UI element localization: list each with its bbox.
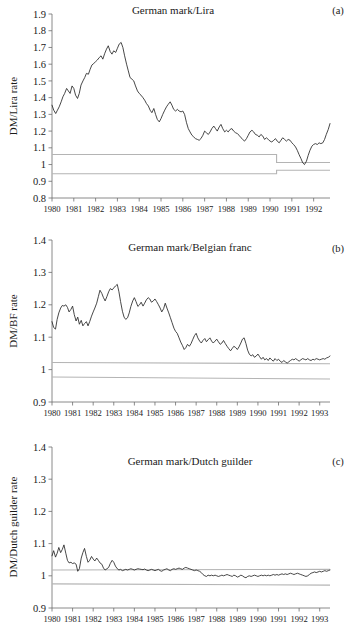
y-tick-label: 1.4 xyxy=(33,235,47,246)
x-tick-label: 1986 xyxy=(174,204,192,214)
series-line-c xyxy=(52,545,330,578)
y-tick-label: 0.9 xyxy=(33,397,46,408)
x-tick-label: 1984 xyxy=(126,408,144,418)
panel-title: German mark/Lira xyxy=(132,4,214,16)
y-tick-label: 1.7 xyxy=(33,42,46,53)
band-upper-line xyxy=(52,155,330,163)
series-line-a xyxy=(52,42,330,164)
series-line-b xyxy=(52,284,330,363)
y-tick-label: 1.2 xyxy=(33,299,46,310)
y-axis-title: DM/Lira rate xyxy=(7,77,19,135)
y-tick-label: 1.2 xyxy=(33,506,46,517)
y-tick-label: 0.9 xyxy=(33,176,46,187)
x-tick-label: 1988 xyxy=(218,204,235,214)
x-tick-label: 1992 xyxy=(291,408,308,418)
x-tick-label: 1985 xyxy=(146,408,163,418)
y-axis-title: DM/BF rate xyxy=(7,294,19,348)
y-tick-label: 1.1 xyxy=(33,538,46,549)
panel-letter: (c) xyxy=(332,456,344,468)
panel-letter: (a) xyxy=(332,5,344,17)
x-tick-label: 1993 xyxy=(311,614,328,624)
x-tick-label: 1980 xyxy=(43,408,60,418)
panel-letter: (b) xyxy=(332,243,345,255)
y-tick-label: 1.4 xyxy=(33,442,47,453)
y-tick-label: 1.3 xyxy=(33,109,46,120)
panel-title: German mark/Dutch guilder xyxy=(128,455,253,467)
x-tick-label: 1982 xyxy=(87,204,104,214)
x-tick-label: 1986 xyxy=(167,614,185,624)
x-tick-label: 1982 xyxy=(85,614,102,624)
chart-svg-a: 0.80.911.11.21.31.41.51.61.71.81.9198019… xyxy=(0,0,356,222)
x-tick-label: 1983 xyxy=(105,614,122,624)
x-tick-label: 1989 xyxy=(240,204,257,214)
band-lower-line xyxy=(52,584,330,585)
panel-b-german-mark-belgian-franc: 0.911.11.21.31.4198019811982198319841985… xyxy=(0,222,356,429)
x-tick-label: 1991 xyxy=(283,204,300,214)
x-tick-label: 1991 xyxy=(270,614,287,624)
band-lower-line xyxy=(52,377,330,379)
x-tick-label: 1989 xyxy=(229,614,246,624)
exchange-rate-figure: 0.80.911.11.21.31.41.51.61.71.81.9198019… xyxy=(0,0,356,637)
y-tick-label: 1.5 xyxy=(33,76,46,87)
x-tick-label: 1990 xyxy=(261,204,278,214)
x-tick-label: 1981 xyxy=(65,204,82,214)
y-tick-label: 1.1 xyxy=(33,332,46,343)
x-tick-label: 1981 xyxy=(64,614,81,624)
chart-svg-c: 0.911.11.21.31.4198019811982198319841985… xyxy=(0,429,356,637)
y-tick-label: 1.8 xyxy=(33,25,46,36)
y-tick-label: 0.9 xyxy=(33,603,46,614)
x-tick-label: 1984 xyxy=(131,204,149,214)
x-tick-label: 1990 xyxy=(249,614,266,624)
y-tick-label: 1.3 xyxy=(33,474,46,485)
x-tick-label: 1983 xyxy=(105,408,122,418)
x-tick-label: 1985 xyxy=(152,204,169,214)
y-tick-label: 1.1 xyxy=(33,142,46,153)
x-tick-label: 1983 xyxy=(109,204,126,214)
x-tick-label: 1986 xyxy=(167,408,185,418)
y-tick-label: 1.3 xyxy=(33,267,46,278)
chart-svg-b: 0.911.11.21.31.4198019811982198319841985… xyxy=(0,222,356,429)
x-tick-label: 1980 xyxy=(43,614,60,624)
x-tick-label: 1991 xyxy=(270,408,287,418)
x-tick-label: 1993 xyxy=(311,408,328,418)
x-tick-label: 1992 xyxy=(291,614,308,624)
x-tick-label: 1987 xyxy=(188,614,206,624)
y-tick-label: 1.6 xyxy=(33,59,46,70)
y-tick-label: 1 xyxy=(41,364,46,375)
y-tick-label: 0.8 xyxy=(33,193,46,204)
x-tick-label: 1985 xyxy=(146,614,163,624)
x-tick-label: 1980 xyxy=(43,204,60,214)
x-tick-label: 1992 xyxy=(305,204,322,214)
x-tick-label: 1982 xyxy=(85,408,102,418)
panel-a-german-mark-lira: 0.80.911.11.21.31.41.51.61.71.81.9198019… xyxy=(0,0,356,222)
y-tick-label: 1 xyxy=(41,570,46,581)
x-tick-label: 1987 xyxy=(188,408,206,418)
y-tick-label: 1.2 xyxy=(33,126,46,137)
y-tick-label: 1.4 xyxy=(33,92,47,103)
y-axis-title: DM/Dutch guilder rate xyxy=(7,476,19,577)
y-tick-label: 1 xyxy=(41,159,46,170)
x-tick-label: 1988 xyxy=(208,408,225,418)
panel-title: German mark/Belgian franc xyxy=(128,241,252,253)
y-tick-label: 1.9 xyxy=(33,9,46,20)
x-tick-label: 1987 xyxy=(196,204,214,214)
x-tick-label: 1989 xyxy=(229,408,246,418)
x-tick-label: 1984 xyxy=(126,614,144,624)
x-tick-label: 1990 xyxy=(249,408,266,418)
band-lower-line xyxy=(52,170,330,174)
x-tick-label: 1981 xyxy=(64,408,81,418)
panel-c-german-mark-dutch-guilder: 0.911.11.21.31.4198019811982198319841985… xyxy=(0,429,356,637)
x-tick-label: 1988 xyxy=(208,614,225,624)
